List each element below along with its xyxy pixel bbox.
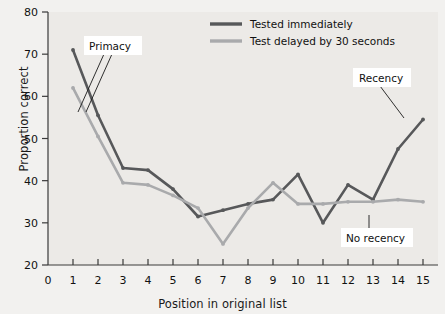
data-point-5: [171, 194, 175, 198]
data-point-13: [371, 200, 375, 204]
data-point-6: [196, 206, 200, 210]
x-tick-label-13: 13: [366, 274, 380, 287]
x-tick-label-12: 12: [341, 274, 355, 287]
annotation-recency: Recency: [359, 72, 403, 84]
legend-label-tested-immediately: Tested immediately: [249, 18, 353, 30]
data-point-1: [71, 48, 75, 52]
x-tick-label-11: 11: [316, 274, 330, 287]
x-tick-label-9: 9: [270, 274, 277, 287]
x-tick-label-2: 2: [95, 274, 102, 287]
data-point-12: [346, 200, 350, 204]
data-point-7: [221, 242, 225, 246]
data-point-7: [221, 208, 225, 212]
y-tick-label-20: 20: [24, 259, 38, 272]
data-point-5: [171, 187, 175, 191]
data-point-4: [146, 183, 150, 187]
data-point-9: [271, 181, 275, 185]
data-point-4: [146, 168, 150, 172]
y-tick-label-30: 30: [24, 217, 38, 230]
data-point-11: [321, 202, 325, 206]
data-point-6: [196, 215, 200, 219]
x-tick-label-10: 10: [291, 274, 305, 287]
data-point-15: [421, 118, 425, 122]
x-tick-label-1: 1: [70, 274, 77, 287]
data-point-14: [396, 147, 400, 151]
serial-position-chart: Proportion correct Position in original …: [0, 0, 445, 314]
data-point-3: [121, 181, 125, 185]
x-tick-label-3: 3: [120, 274, 127, 287]
data-point-15: [421, 200, 425, 204]
data-point-1: [71, 86, 75, 90]
plot-svg: 20304050607080 0123456789101112131415 Te…: [0, 0, 445, 314]
data-point-2: [96, 135, 100, 139]
y-tick-label-80: 80: [24, 6, 38, 19]
x-tick-label-4: 4: [145, 274, 152, 287]
y-axis-title: Proportion correct: [17, 49, 31, 189]
data-point-12: [346, 183, 350, 187]
x-axis-title: Position in original list: [0, 297, 445, 311]
data-point-10: [296, 172, 300, 176]
data-point-3: [121, 166, 125, 170]
data-point-9: [271, 198, 275, 202]
x-tick-label-8: 8: [245, 274, 252, 287]
data-point-10: [296, 202, 300, 206]
x-tick-label-14: 14: [391, 274, 405, 287]
annotation-primacy: Primacy: [89, 40, 131, 52]
x-tick-label-5: 5: [170, 274, 177, 287]
legend-label-test-delayed: Test delayed by 30 seconds: [249, 35, 395, 47]
x-tick-label-0: 0: [45, 274, 52, 287]
x-tick-label-7: 7: [220, 274, 227, 287]
annotation-no-recency: No recency: [346, 232, 405, 244]
x-tick-label-6: 6: [195, 274, 202, 287]
data-point-8: [246, 206, 250, 210]
data-point-11: [321, 221, 325, 225]
x-tick-label-15: 15: [416, 274, 430, 287]
data-point-14: [396, 198, 400, 202]
data-point-2: [96, 113, 100, 117]
